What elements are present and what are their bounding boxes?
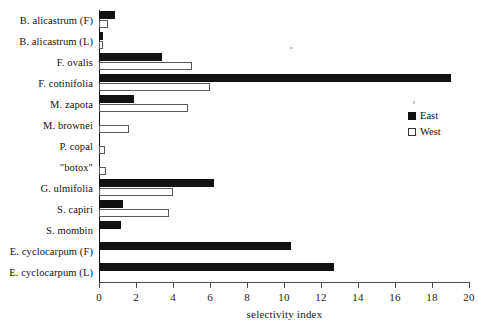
x-tick-label: 20 (454, 291, 478, 303)
category-row: F. cotinifolia (0, 73, 478, 95)
x-tick-label: 16 (380, 291, 410, 303)
x-tick (469, 282, 470, 288)
scan-artifact (290, 47, 293, 49)
bar-east (99, 263, 334, 271)
x-tick (432, 282, 433, 288)
x-tick (99, 282, 100, 288)
category-row: P. copal (0, 136, 478, 158)
category-label: F. cotinifolia (0, 78, 93, 89)
bar-west (99, 41, 103, 49)
x-tick (395, 282, 396, 288)
category-row: F. ovalis (0, 52, 478, 74)
legend-swatch-west-icon (408, 128, 416, 136)
x-tick-label: 4 (158, 291, 188, 303)
category-row: G. ulmifolia (0, 178, 478, 200)
category-label: P. copal (0, 141, 93, 152)
x-tick (173, 282, 174, 288)
x-tick-label: 8 (232, 291, 262, 303)
x-tick-label: 18 (417, 291, 447, 303)
x-tick (136, 282, 137, 288)
bar-west (99, 167, 106, 175)
bar-west (99, 188, 173, 196)
selectivity-index-bar-chart: B. alicastrum (F)B. alicastrum (L)F. ova… (0, 0, 478, 333)
bar-east (99, 11, 115, 19)
legend-label-east: East (420, 108, 438, 124)
category-row: M. zapota (0, 94, 478, 116)
bar-west (99, 104, 188, 112)
x-tick-label: 14 (343, 291, 373, 303)
bar-west (99, 125, 129, 133)
bar-east (99, 221, 121, 229)
category-label: G. ulmifolia (0, 183, 93, 194)
x-tick-label: 12 (306, 291, 336, 303)
category-label: F. ovalis (0, 57, 93, 68)
bar-west (99, 20, 108, 28)
category-label: E. cyclocarpum (L) (0, 267, 93, 278)
x-tick-label: 0 (84, 291, 114, 303)
legend-swatch-east-icon (408, 112, 416, 120)
x-axis-label: selectivity index (99, 308, 470, 320)
bar-west (99, 62, 192, 70)
category-row: E. cyclocarpum (L) (0, 262, 478, 284)
x-tick (358, 282, 359, 288)
chart-legend: East West (408, 108, 441, 140)
bar-west (99, 209, 169, 217)
x-tick (247, 282, 248, 288)
x-tick-label: 2 (121, 291, 151, 303)
bar-west (99, 83, 210, 91)
x-tick (321, 282, 322, 288)
bar-east (99, 95, 134, 103)
category-label: B. alicastrum (L) (0, 36, 93, 47)
x-tick (284, 282, 285, 288)
x-tick-label: 10 (269, 291, 299, 303)
x-tick-label: 6 (195, 291, 225, 303)
legend-item-east: East (408, 108, 441, 124)
category-label: "botox" (0, 162, 93, 173)
bar-east (99, 200, 123, 208)
category-row: "botox" (0, 157, 478, 179)
bar-east (99, 53, 162, 61)
category-row: S. mombin (0, 220, 478, 242)
category-row: S. capiri (0, 199, 478, 221)
category-label: E. cyclocarpum (F) (0, 246, 93, 257)
category-row: E. cyclocarpum (F) (0, 241, 478, 263)
category-row: B. alicastrum (L) (0, 31, 478, 53)
x-tick (210, 282, 211, 288)
bar-east (99, 32, 103, 40)
legend-label-west: West (420, 124, 441, 140)
bar-east (99, 242, 291, 250)
bar-east (99, 74, 451, 82)
category-label: M. zapota (0, 99, 93, 110)
category-label: S. mombin (0, 225, 93, 236)
bar-east (99, 179, 214, 187)
legend-item-west: West (408, 124, 441, 140)
scan-artifact (413, 101, 415, 104)
category-label: M. brownei (0, 120, 93, 131)
category-label: B. alicastrum (F) (0, 15, 93, 26)
category-row: B. alicastrum (F) (0, 10, 478, 32)
category-label: S. capiri (0, 204, 93, 215)
category-row: M. brownei (0, 115, 478, 137)
bar-west (99, 146, 105, 154)
